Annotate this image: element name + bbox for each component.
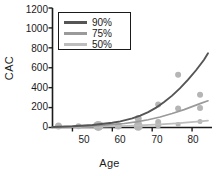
chart-figure: CAC 1200 1000 800 600 400 200 0 50 60 70… — [0, 0, 219, 176]
legend-label-50: 50% — [92, 39, 112, 50]
legend-label-90: 90% — [92, 17, 112, 28]
legend-item-50: 50% — [64, 39, 112, 50]
legend-swatch-75 — [64, 32, 87, 35]
legend-item-90: 90% — [64, 17, 112, 28]
quantile-curves — [53, 53, 209, 127]
legend-swatch-90 — [64, 21, 87, 24]
scatter-points — [55, 72, 203, 131]
legend-item-75: 75% — [64, 28, 112, 39]
legend-label-75: 75% — [92, 28, 112, 39]
legend: 90% 75% 50% — [58, 12, 131, 50]
legend-swatch-50 — [64, 43, 87, 46]
